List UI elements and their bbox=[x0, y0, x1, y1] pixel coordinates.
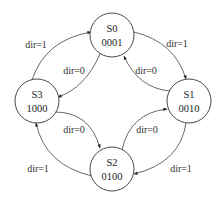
transition-s3-s2: dir=0 bbox=[55, 112, 100, 148]
transition-label: dir=0 bbox=[136, 124, 158, 135]
transition-s0-s3: dir=0 bbox=[58, 54, 100, 97]
state-diagram: dir=1 dir=1 dir=1 dir=1 dir=0 dir=0 dir=… bbox=[0, 0, 219, 200]
transition-label: dir=0 bbox=[63, 124, 85, 135]
state-code: 0010 bbox=[179, 103, 200, 114]
transition-label: dir=1 bbox=[25, 39, 47, 50]
transition-s2-s1: dir=0 bbox=[122, 109, 167, 150]
transition-s1-s0: dir=0 bbox=[124, 56, 170, 91]
transition-label: dir=1 bbox=[27, 163, 49, 174]
state-name: S1 bbox=[183, 89, 194, 100]
transition-label: dir=1 bbox=[166, 38, 188, 49]
state-s3: S3 1000 bbox=[15, 79, 59, 123]
transition-label: dir=0 bbox=[63, 65, 85, 76]
transition-label: dir=1 bbox=[170, 163, 192, 174]
state-code: 0001 bbox=[102, 37, 123, 48]
state-name: S0 bbox=[106, 23, 117, 34]
state-code: 0100 bbox=[102, 171, 123, 182]
state-code: 1000 bbox=[27, 103, 48, 114]
state-name: S2 bbox=[106, 157, 117, 168]
state-name: S3 bbox=[31, 89, 42, 100]
state-s2: S2 0100 bbox=[90, 147, 134, 191]
state-s1: S1 0010 bbox=[167, 79, 211, 123]
state-s0: S0 0001 bbox=[90, 13, 134, 57]
transition-label: dir=0 bbox=[135, 65, 157, 76]
